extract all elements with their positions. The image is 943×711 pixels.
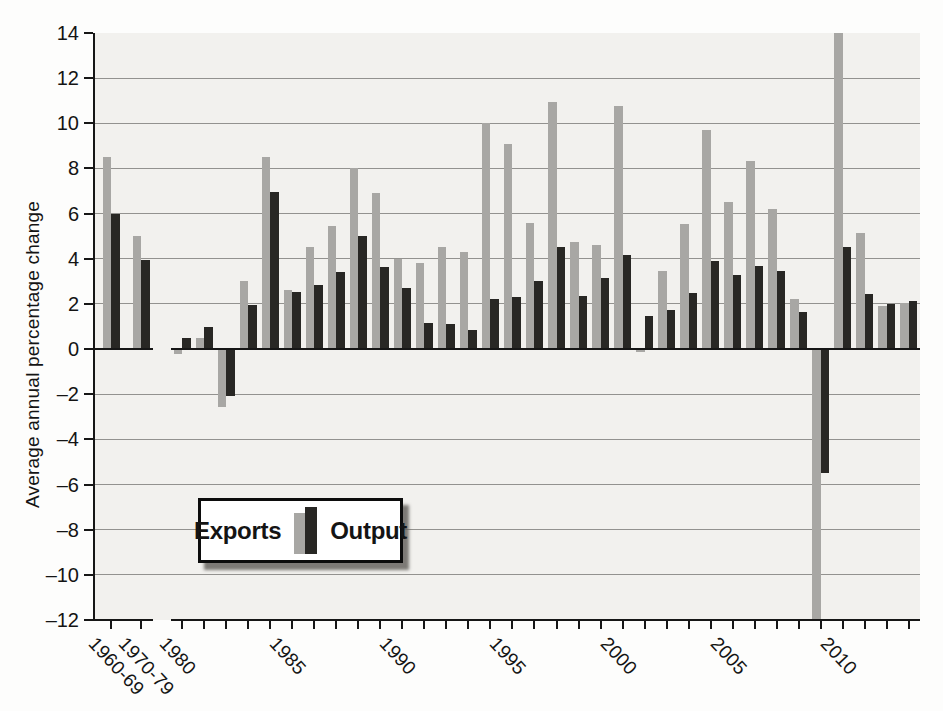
legend-output-label: Output <box>330 517 407 545</box>
y-tick--10 <box>84 574 93 576</box>
y-axis-spine <box>93 33 96 621</box>
x-tick-1980 <box>181 621 183 629</box>
bar-exports-1988 <box>350 168 359 349</box>
x-tick-1988 <box>357 621 359 629</box>
bar-exports-1994 <box>482 123 491 349</box>
y-tick-14 <box>84 32 93 34</box>
x-axis-segment-1 <box>171 619 920 622</box>
bar-output-2010 <box>843 247 852 349</box>
x-tick-1998 <box>578 621 580 629</box>
y-tick-4 <box>84 258 93 260</box>
bar-output-2002 <box>667 310 676 350</box>
y-tick-12 <box>84 77 93 79</box>
bar-exports-1970-79 <box>133 236 142 349</box>
y-tick-label-4: 4 <box>31 248 79 270</box>
x-tick-1987 <box>335 621 337 629</box>
bar-output-2000 <box>623 255 632 349</box>
bar-output-1999 <box>601 278 610 349</box>
legend-exports-swatch <box>294 513 305 554</box>
x-tick-label-1990: 1990 <box>375 633 420 680</box>
y-tick-label-0: 0 <box>31 338 79 360</box>
bar-exports-1993 <box>460 252 469 349</box>
x-tick-2010 <box>842 621 844 629</box>
x-tick-2000 <box>622 621 624 629</box>
bar-output-2005 <box>733 275 742 350</box>
bar-output-2007 <box>777 271 786 349</box>
bar-output-2004 <box>711 261 720 349</box>
bar-output-2012 <box>887 304 896 349</box>
y-tick-label-12: 12 <box>31 67 79 89</box>
x-tick-2001 <box>644 621 646 629</box>
bar-exports-1986 <box>306 247 315 349</box>
gridline--10 <box>95 574 920 575</box>
bar-exports-1960-69 <box>103 157 112 349</box>
x-tick-1991 <box>423 621 425 629</box>
zero-line-segment-1 <box>171 348 920 351</box>
legend-swatch <box>294 507 317 554</box>
gridline-10 <box>95 123 920 124</box>
bar-exports-1989 <box>372 193 381 349</box>
bar-exports-1985 <box>284 290 293 349</box>
y-tick-label--10: –10 <box>31 564 79 586</box>
bar-exports-1992 <box>438 247 447 349</box>
bar-exports-1991 <box>416 263 425 349</box>
y-tick--8 <box>84 529 93 531</box>
bar-exports-2008 <box>790 299 799 349</box>
y-tick-label-10: 10 <box>31 112 79 134</box>
bar-exports-1999 <box>592 245 601 349</box>
bar-exports-2010 <box>834 33 843 349</box>
y-tick-label-14: 14 <box>31 22 79 44</box>
bar-output-2009 <box>821 349 830 473</box>
bar-output-2001 <box>645 316 654 349</box>
y-tick--6 <box>84 484 93 486</box>
x-tick-1993 <box>467 621 469 629</box>
bar-output-1989 <box>380 267 389 349</box>
x-tick-2002 <box>666 621 668 629</box>
x-tick-1970-79 <box>140 621 142 629</box>
bar-exports-1984 <box>262 157 271 349</box>
y-tick-label--6: –6 <box>31 474 79 496</box>
y-tick-label--8: –8 <box>31 519 79 541</box>
bar-output-1981 <box>204 327 213 350</box>
y-tick-0 <box>84 348 93 350</box>
legend-output-swatch <box>305 507 317 554</box>
x-tick-1990 <box>401 621 403 629</box>
bar-exports-2013 <box>900 303 909 349</box>
x-tick-label-2000: 2000 <box>596 633 641 680</box>
legend-exports-label: Exports <box>194 517 281 545</box>
x-tick-1999 <box>600 621 602 629</box>
bar-exports-1982 <box>218 349 227 407</box>
x-tick-2004 <box>710 621 712 629</box>
x-tick-1996 <box>533 621 535 629</box>
bar-exports-2007 <box>768 209 777 349</box>
bar-output-1960-69 <box>111 214 120 349</box>
bar-exports-1983 <box>240 281 249 349</box>
x-tick-2003 <box>688 621 690 629</box>
bar-output-1995 <box>512 297 521 349</box>
bar-output-2011 <box>865 294 874 349</box>
bar-exports-1997 <box>548 102 557 349</box>
bar-exports-2006 <box>746 161 755 350</box>
bar-output-1990 <box>402 288 411 349</box>
bar-output-1992 <box>446 324 455 349</box>
gridline--6 <box>95 484 920 485</box>
y-tick-10 <box>84 122 93 124</box>
x-tick-label-1985: 1985 <box>265 633 310 680</box>
bar-exports-1995 <box>504 144 513 349</box>
x-tick-2013 <box>908 621 910 629</box>
bar-output-1982 <box>226 349 235 396</box>
x-tick-2012 <box>886 621 888 629</box>
bar-output-1984 <box>270 192 279 349</box>
y-tick-label--4: –4 <box>31 428 79 450</box>
bar-output-2006 <box>755 266 764 350</box>
x-tick-1994 <box>489 621 491 629</box>
bar-output-1983 <box>248 305 257 349</box>
bar-exports-2012 <box>878 306 887 349</box>
legend: Exports Output <box>198 498 403 563</box>
x-tick-2007 <box>776 621 778 629</box>
gridline--4 <box>95 439 920 440</box>
x-tick-1986 <box>313 621 315 629</box>
y-tick-2 <box>84 303 93 305</box>
bar-output-2013 <box>909 301 918 350</box>
x-axis-segment-0 <box>95 619 153 622</box>
